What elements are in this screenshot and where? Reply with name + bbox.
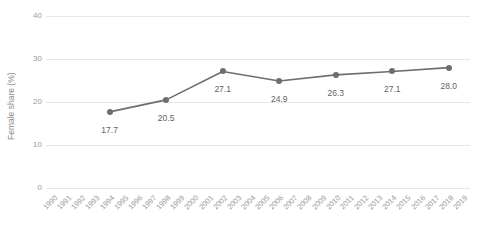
data-point-label: 24.9 [271,95,288,104]
data-point-label: 17.7 [101,126,118,135]
data-point-label: 20.5 [158,114,175,123]
data-point-marker[interactable] [389,68,395,74]
data-point-marker[interactable] [276,78,282,84]
data-point-label: 26.3 [327,89,344,98]
data-point-marker[interactable] [220,68,226,74]
plot-area: 010203040 Female share (%) 1990199119921… [0,0,480,240]
data-point-label: 27.1 [384,85,401,94]
series-line-svg [0,0,480,240]
line-chart: 010203040 Female share (%) 1990199119921… [0,0,480,240]
data-point-marker[interactable] [446,65,452,71]
data-point-label: 28.0 [441,82,458,91]
data-point-marker[interactable] [333,72,339,78]
data-point-marker[interactable] [107,109,113,115]
data-point-label: 27.1 [214,85,231,94]
data-point-marker[interactable] [163,97,169,103]
